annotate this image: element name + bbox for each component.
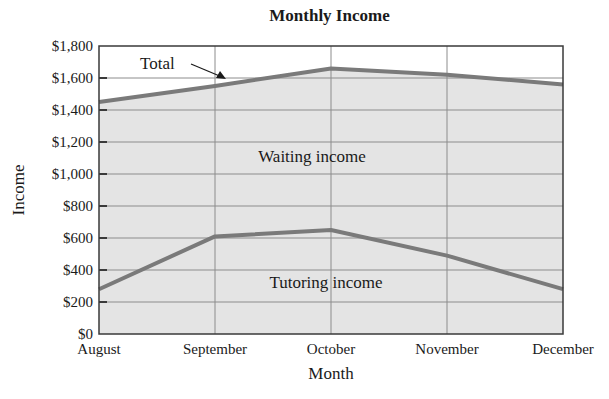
y-tick-label: $400 [63, 262, 93, 278]
y-tick-label: $200 [63, 294, 93, 310]
y-tick-label: $1,200 [52, 134, 93, 150]
total-annotation-label: Total [140, 54, 175, 73]
y-axis-label: Income [9, 165, 28, 216]
x-tick-label: September [183, 341, 247, 357]
y-tick-label: $1,600 [52, 70, 93, 86]
y-tick-label: $1,000 [52, 166, 93, 182]
x-tick-label: August [77, 341, 121, 357]
y-tick-label: $0 [78, 326, 93, 342]
x-tick-label: October [307, 341, 355, 357]
x-axis-label: Month [308, 364, 354, 383]
chart-canvas: $0$200$400$600$800$1,000$1,200$1,400$1,6… [0, 0, 609, 399]
y-tick-label: $1,400 [52, 102, 93, 118]
total-arrow [191, 64, 222, 77]
x-tick-label: November [415, 341, 478, 357]
waiting-income-label: Waiting income [258, 147, 366, 166]
y-tick-label: $800 [63, 198, 93, 214]
y-tick-label: $1,800 [52, 38, 93, 54]
tutoring-income-label: Tutoring income [269, 273, 382, 292]
y-tick-label: $600 [63, 230, 93, 246]
x-tick-label: December [532, 341, 594, 357]
